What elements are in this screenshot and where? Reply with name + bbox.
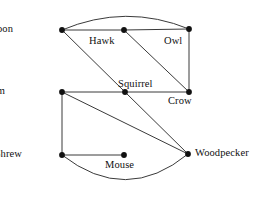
graph-node-mouse[interactable] [121, 152, 127, 158]
graph-canvas [0, 0, 263, 203]
graph-node-hawk[interactable] [121, 27, 127, 33]
node-label-crow: Crow [168, 96, 192, 107]
graph-node-squirrel[interactable] [122, 89, 128, 95]
node-label-woodpecker: Woodpecker [195, 148, 249, 159]
graph-node-owl[interactable] [186, 26, 192, 32]
node-label-opossum: Opossum [0, 86, 5, 97]
node-label-squirrel: Squirrel [118, 79, 153, 90]
graph-node-shrew[interactable] [59, 152, 65, 158]
graph-node-woodpecker[interactable] [185, 151, 191, 157]
node-label-owl: Owl [164, 36, 182, 47]
graph-edge-hawk-owl [124, 29, 189, 30]
node-label-mouse: Mouse [105, 160, 134, 171]
node-label-shrew: Shrew [0, 149, 22, 160]
graph-figure: RaccoonHawkOwlOpossumSquirrelCrowShrewMo… [0, 0, 263, 203]
graph-node-opossum[interactable] [59, 89, 65, 95]
node-label-hawk: Hawk [89, 36, 114, 47]
node-label-raccoon: Raccoon [0, 24, 13, 35]
graph-node-raccoon[interactable] [59, 27, 65, 33]
